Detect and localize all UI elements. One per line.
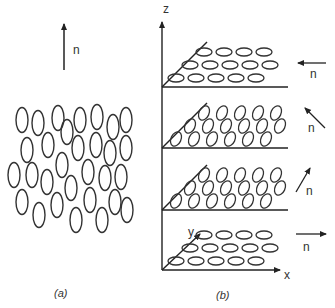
- molecule: [56, 153, 68, 178]
- diagram-canvas: [0, 0, 335, 308]
- layer-3-director-label: n: [306, 185, 313, 197]
- layer-molecule: [208, 74, 224, 82]
- molecule: [115, 165, 127, 190]
- layer-1-director-label: n: [310, 68, 317, 80]
- layer-molecule: [168, 257, 184, 265]
- layer-molecule: [188, 74, 204, 82]
- panel-a-molecules: [8, 105, 133, 233]
- layer-molecule: [222, 61, 238, 69]
- x-axis-label: x: [284, 269, 290, 281]
- panel-b-director-arrows: [296, 63, 326, 234]
- molecule: [32, 111, 44, 136]
- layer-molecule: [202, 61, 218, 69]
- panel-b-caption: (b): [216, 290, 229, 301]
- layer-molecule: [248, 257, 264, 265]
- layer-molecule: [216, 48, 232, 56]
- molecule: [84, 188, 96, 213]
- layer-molecule: [228, 74, 244, 82]
- layer-molecule: [236, 48, 252, 56]
- panel-a-director-label: n: [73, 44, 80, 56]
- layer-molecule: [188, 257, 204, 265]
- molecule: [120, 108, 132, 133]
- layer-molecule: [236, 231, 252, 239]
- panel-b-layer-molecules: [168, 48, 288, 265]
- z-axis-label: z: [163, 3, 169, 15]
- molecule: [90, 133, 102, 158]
- layer-2-director-label: n: [308, 122, 315, 134]
- layer-molecule: [262, 61, 278, 69]
- layer-molecule: [208, 257, 224, 265]
- molecule: [109, 190, 121, 215]
- panel-b-axes: [162, 22, 288, 270]
- layer-molecule: [168, 192, 183, 210]
- y-axis-label: y: [188, 226, 194, 238]
- layer-4-director-label: n: [303, 241, 310, 253]
- layer-molecule: [216, 231, 232, 239]
- molecule: [21, 138, 33, 163]
- molecule: [16, 190, 28, 215]
- molecule: [41, 170, 53, 195]
- molecule: [120, 136, 132, 161]
- layer-molecule: [242, 61, 258, 69]
- molecule: [33, 203, 45, 228]
- molecule: [74, 108, 86, 133]
- molecule: [72, 136, 84, 161]
- panel-a-caption: (a): [54, 288, 67, 299]
- layer-molecule: [202, 244, 218, 252]
- layer-molecule: [262, 244, 278, 252]
- molecule: [65, 176, 77, 201]
- molecule: [99, 166, 111, 191]
- molecule: [51, 193, 63, 218]
- molecule: [82, 160, 94, 185]
- molecule: [8, 163, 20, 188]
- layer-molecule: [256, 231, 272, 239]
- molecule: [42, 133, 54, 158]
- layer-molecule: [256, 48, 272, 56]
- molecule: [91, 105, 103, 130]
- molecule: [104, 141, 116, 166]
- molecule: [70, 208, 82, 233]
- molecule: [26, 163, 38, 188]
- layer-molecule: [196, 48, 212, 56]
- molecule: [96, 208, 108, 233]
- layer-molecule: [222, 244, 238, 252]
- molecule: [107, 115, 119, 140]
- molecule: [16, 108, 28, 133]
- layer-molecule: [228, 257, 244, 265]
- layer-molecule: [242, 244, 258, 252]
- molecule: [61, 120, 73, 145]
- layer-molecule: [168, 130, 183, 148]
- layer-molecule: [248, 74, 264, 82]
- molecule: [121, 198, 133, 223]
